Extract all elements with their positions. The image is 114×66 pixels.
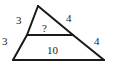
triangle-outline [13,6,104,60]
label-left-side-lower: 3 [2,36,8,47]
label-midsegment-unknown: ? [42,23,47,34]
label-base: 10 [47,45,58,56]
label-right-side-lower: 4 [94,36,100,47]
label-right-side-upper: 4 [66,13,72,24]
left-side-upper-line [27,6,38,35]
triangle-diagram-svg [0,0,114,66]
label-left-side-upper: 3 [16,15,22,26]
geometry-figure: 3 3 4 4 10 ? [0,0,114,66]
left-side-lower-line [13,35,27,60]
